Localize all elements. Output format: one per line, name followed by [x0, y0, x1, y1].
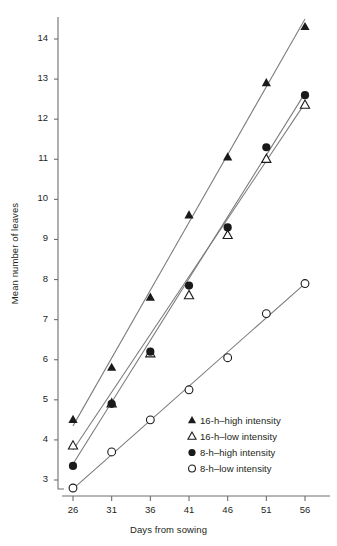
y-tick-label: 6: [24, 353, 48, 364]
x-tick-label: 26: [58, 504, 88, 515]
y-axis-title: Mean number of leaves: [9, 194, 20, 314]
y-tick-label: 11: [24, 152, 48, 163]
y-tick-label: 9: [24, 232, 48, 243]
legend-item: 8-h–low intensity: [184, 460, 281, 476]
x-tick-label: 31: [97, 504, 127, 515]
legend-label: 8-h–low intensity: [200, 463, 272, 474]
plot-area: [0, 0, 337, 546]
legend-label: 8-h–high intensity: [200, 447, 275, 458]
filled-triangle-icon: [184, 413, 200, 427]
y-tick-label: 8: [24, 273, 48, 284]
y-tick-label: 14: [24, 32, 48, 43]
y-tick-label: 4: [24, 433, 48, 444]
legend-item: 8-h–high intensity: [184, 444, 281, 460]
open-triangle-icon: [184, 429, 200, 443]
y-tick-label: 7: [24, 313, 48, 324]
legend-label: 16-h–low intensity: [200, 431, 277, 442]
x-tick-label: 46: [213, 504, 243, 515]
y-tick-label: 13: [24, 72, 48, 83]
y-tick-label: 5: [24, 393, 48, 404]
x-tick-label: 51: [251, 504, 281, 515]
legend-label: 16-h–high intensity: [200, 415, 281, 426]
y-tick-label: 10: [24, 192, 48, 203]
x-axis-title: Days from sowing: [0, 524, 337, 535]
legend-item: 16-h–low intensity: [184, 428, 281, 444]
legend-item: 16-h–high intensity: [184, 412, 281, 428]
open-circle-icon: [184, 461, 200, 475]
chart-legend: 16-h–high intensity16-h–low intensity8-h…: [184, 412, 281, 476]
x-tick-label: 56: [290, 504, 320, 515]
leaf-growth-chart: 3456789101112131426313641465156 Mean num…: [0, 0, 337, 546]
y-tick-label: 3: [24, 473, 48, 484]
x-tick-label: 36: [135, 504, 165, 515]
x-tick-label: 41: [174, 504, 204, 515]
filled-circle-icon: [184, 445, 200, 459]
y-tick-label: 12: [24, 112, 48, 123]
